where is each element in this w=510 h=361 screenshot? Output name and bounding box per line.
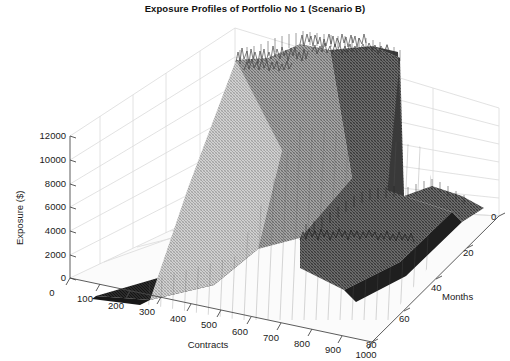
svg-text:8000: 8000	[45, 178, 66, 189]
svg-text:800: 800	[294, 338, 310, 349]
svg-text:60: 60	[399, 313, 410, 324]
svg-text:0: 0	[61, 272, 66, 283]
svg-text:0: 0	[491, 211, 496, 222]
svg-text:600: 600	[232, 326, 248, 337]
figure-canvas: Exposure Profiles of Portfolio No 1 (Sce…	[0, 0, 510, 361]
svg-text:4000: 4000	[45, 225, 66, 236]
z-axis-tick-labels: 12000 10000 8000 6000 4000 2000 0	[40, 130, 66, 283]
svg-text:100: 100	[77, 293, 93, 304]
svg-text:2000: 2000	[45, 249, 66, 260]
y-axis-label: Months	[442, 291, 473, 302]
svg-text:0: 0	[49, 287, 54, 298]
svg-text:700: 700	[263, 332, 279, 343]
svg-text:200: 200	[108, 300, 124, 311]
svg-text:12000: 12000	[40, 130, 66, 141]
svg-text:40: 40	[431, 282, 442, 293]
svg-text:300: 300	[139, 306, 155, 317]
svg-text:1000: 1000	[355, 349, 376, 360]
x-axis-label: Contracts	[188, 339, 229, 350]
svg-text:80: 80	[366, 339, 377, 350]
plot-3d-surface: 12000 10000 8000 6000 4000 2000 0 0 100 …	[0, 0, 510, 361]
svg-text:500: 500	[201, 319, 217, 330]
svg-text:20: 20	[463, 247, 474, 258]
svg-text:900: 900	[325, 344, 341, 355]
svg-text:6000: 6000	[45, 201, 66, 212]
svg-text:400: 400	[170, 313, 186, 324]
svg-text:10000: 10000	[40, 154, 66, 165]
